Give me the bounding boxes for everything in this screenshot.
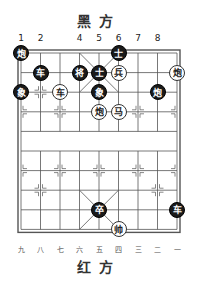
black-piece[interactable]: 炮 bbox=[13, 45, 29, 61]
red-side-label: 红方 bbox=[0, 256, 197, 276]
column-number-chinese: 三 bbox=[135, 244, 142, 254]
red-piece[interactable]: 炮 bbox=[169, 65, 185, 81]
black-piece[interactable]: 车 bbox=[33, 65, 49, 81]
column-number-chinese: 六 bbox=[76, 244, 83, 254]
red-piece[interactable]: 马 bbox=[111, 104, 127, 120]
red-piece[interactable]: 炮 bbox=[91, 104, 107, 120]
black-piece[interactable]: 象 bbox=[13, 84, 29, 100]
black-piece[interactable]: 卒 bbox=[91, 202, 107, 218]
column-number-chinese: 四 bbox=[115, 244, 122, 254]
red-piece[interactable]: 车 bbox=[52, 84, 68, 100]
black-piece[interactable]: 象 bbox=[91, 84, 107, 100]
column-number-chinese: 五 bbox=[96, 244, 103, 254]
column-number-chinese: 二 bbox=[154, 244, 161, 254]
red-piece[interactable]: 帅 bbox=[111, 221, 127, 237]
black-piece[interactable]: 士 bbox=[91, 65, 107, 81]
column-number-chinese: 九 bbox=[18, 244, 25, 254]
black-piece[interactable]: 炮 bbox=[150, 84, 166, 100]
black-piece[interactable]: 将 bbox=[72, 65, 88, 81]
column-number-chinese: 一 bbox=[174, 244, 181, 254]
column-number-chinese: 八 bbox=[37, 244, 44, 254]
black-piece[interactable]: 车 bbox=[169, 202, 185, 218]
black-piece[interactable]: 士 bbox=[111, 45, 127, 61]
red-piece[interactable]: 兵 bbox=[111, 65, 127, 81]
column-number-chinese: 七 bbox=[57, 244, 64, 254]
